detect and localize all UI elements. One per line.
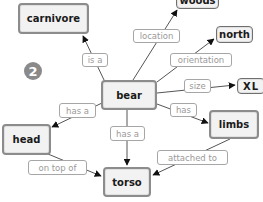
node-north[interactable]: north [216,26,253,43]
node-carnivore[interactable]: carnivore [18,3,89,34]
link-has-a-head[interactable]: has a [59,103,96,118]
link-attached-to[interactable]: attached to [157,150,228,165]
step-number-badge: 2 [24,62,42,80]
node-limbs[interactable]: limbs [209,110,259,139]
node-head[interactable]: head [2,124,51,155]
link-has[interactable]: has [170,103,197,117]
link-size[interactable]: size [184,79,211,93]
concept-map: 2 carnivore woods north XL bear limbs he… [0,0,263,202]
link-location[interactable]: location [133,29,180,43]
link-on-top-of[interactable]: on top of [28,160,87,175]
node-bear[interactable]: bear [101,80,157,110]
link-has-a-torso[interactable]: has a [110,126,145,141]
node-xl[interactable]: XL [237,78,263,94]
edge-location [133,10,177,80]
node-torso[interactable]: torso [103,167,151,197]
link-orientation[interactable]: orientation [170,53,232,67]
node-woods[interactable]: woods [176,0,219,9]
link-is-a[interactable]: is a [82,53,108,67]
